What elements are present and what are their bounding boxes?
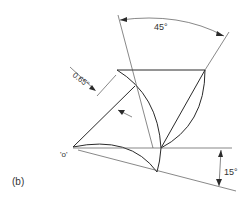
fifteen-degree-line [78,150,236,191]
offset-label: 0.65" [71,70,91,89]
center-short-curve [157,148,161,172]
arrow-head-right [216,31,224,36]
angle-45-label: 45° [154,22,168,32]
inner-arrow-head [118,110,125,115]
arrow-down [216,179,222,186]
figure-label: (b) [12,176,24,187]
point-o-label: 'o' [60,150,68,159]
vertical-construction-line [118,15,153,148]
left-arc [117,70,161,148]
forty-five-arc [120,18,224,36]
technical-diagram: 45° 15° 0.65" 'o' (b) [0,0,251,210]
offset-extension-line [97,75,116,96]
angled-construction-line [205,32,229,70]
angle-15-label: 15° [224,167,238,177]
left-edge-line [73,86,135,147]
arrow-head-left [120,17,127,22]
arrow-up [218,150,223,157]
